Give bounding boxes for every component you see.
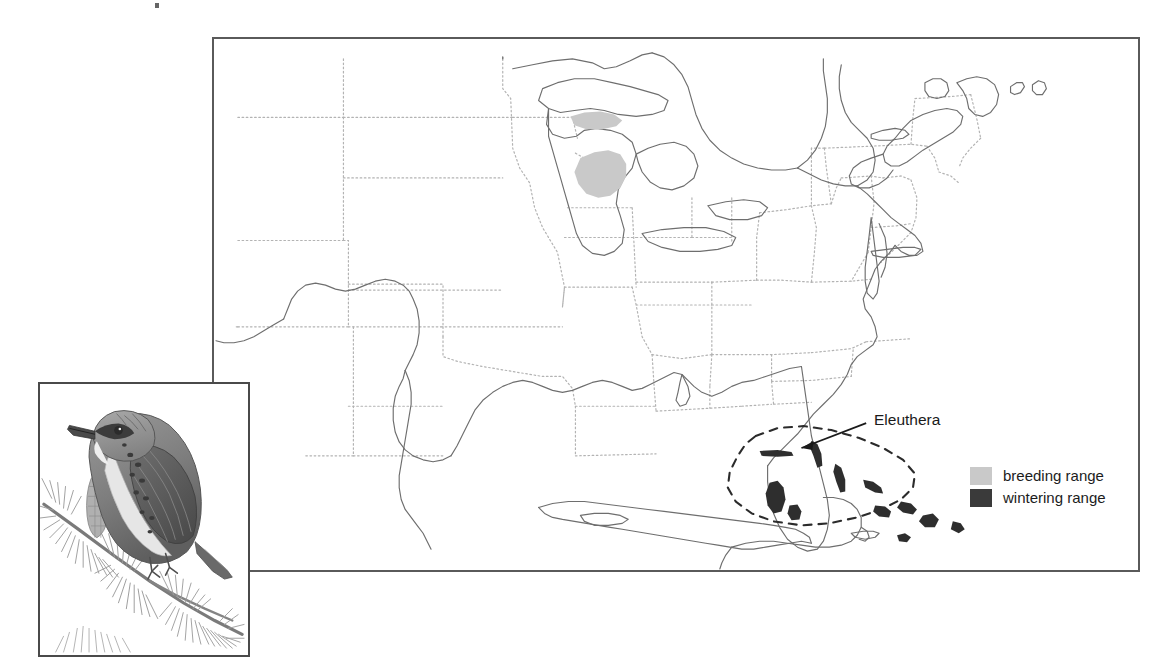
breeding-label: breeding range: [1003, 467, 1104, 485]
wintering-swatch: [970, 489, 992, 507]
wintering-range-bahamas: [728, 426, 965, 542]
range-map-panel: Eleuthera breeding range wintering range: [212, 37, 1140, 572]
map-legend: breeding range wintering range: [970, 466, 1140, 510]
bahama-islands: [760, 441, 965, 542]
wintering-label: wintering range: [1003, 489, 1106, 507]
scan-speck: [155, 3, 159, 8]
coastlines: [216, 53, 1046, 569]
eleuthera-label: Eleuthera: [874, 411, 940, 429]
legend-item-wintering: wintering range: [970, 488, 1140, 508]
breeding-range-patches: [570, 111, 626, 197]
breeding-swatch: [970, 467, 992, 485]
warbler-illustration: [40, 384, 248, 655]
figure-canvas: Eleuthera breeding range wintering range: [0, 0, 1173, 671]
legend-item-breeding: breeding range: [970, 466, 1140, 486]
species-illustration-panel: [38, 382, 250, 657]
